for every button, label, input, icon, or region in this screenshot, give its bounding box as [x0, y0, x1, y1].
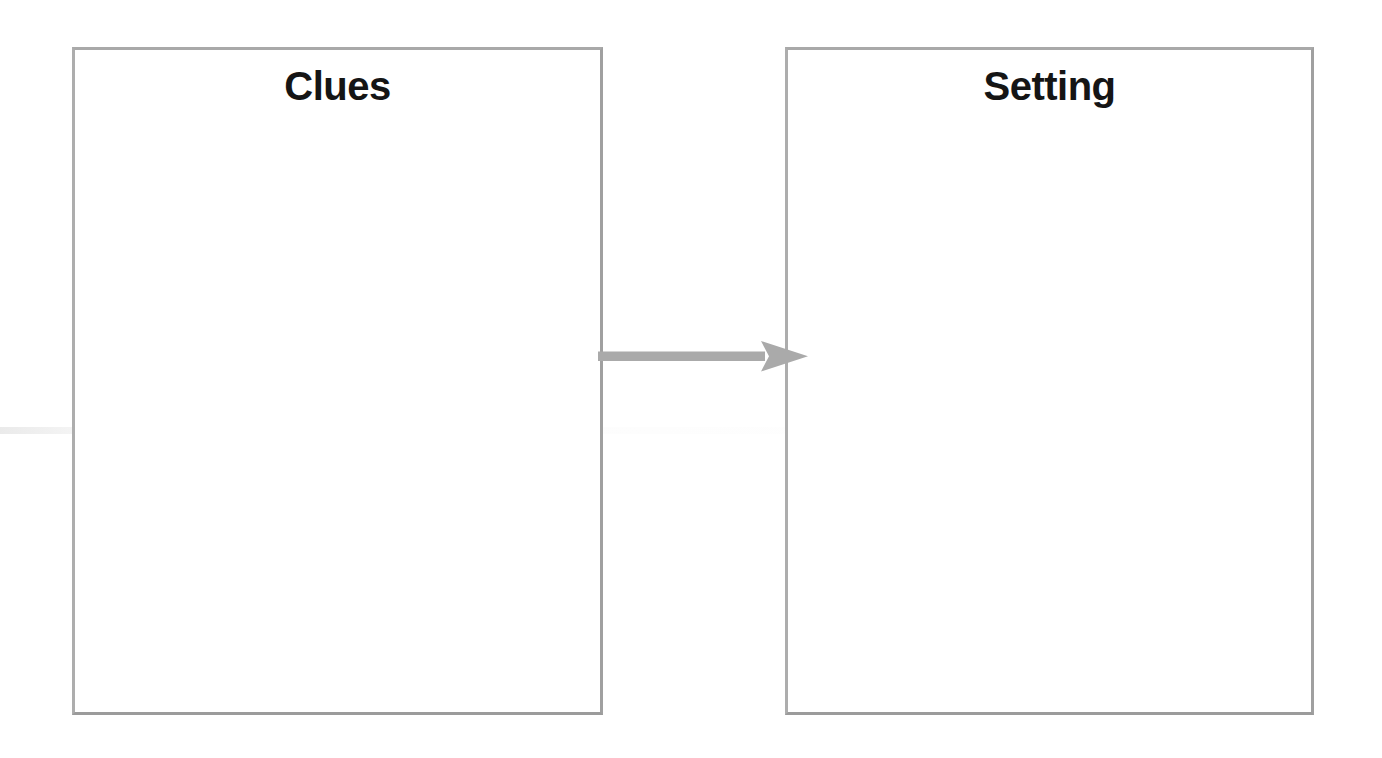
box-title-setting: Setting — [788, 62, 1311, 110]
worksheet-canvas: Clues Setting — [0, 0, 1382, 758]
box-title-clues: Clues — [75, 62, 600, 110]
box-body-setting[interactable] — [788, 120, 1311, 712]
organizer-box-clues[interactable]: Clues — [72, 47, 603, 715]
organizer-box-setting[interactable]: Setting — [785, 47, 1314, 715]
box-body-clues[interactable] — [75, 120, 600, 712]
arrow-right-icon — [598, 334, 813, 378]
